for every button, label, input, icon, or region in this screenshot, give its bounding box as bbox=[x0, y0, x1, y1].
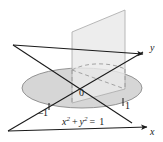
tick-label-positive-one: 1 bbox=[125, 101, 130, 111]
equation-operator: + bbox=[72, 116, 78, 127]
x-axis-line bbox=[8, 127, 147, 131]
equation-rhs: 1 bbox=[99, 116, 104, 127]
equation-term1-exponent: 2 bbox=[66, 115, 70, 123]
origin-label: 0 bbox=[79, 88, 84, 98]
math-figure-cylinder: y x 0 –1 1 x2+y2=1 bbox=[0, 0, 163, 142]
equation-label: x2+y2=1 bbox=[62, 116, 106, 127]
tick-label-negative-one: –1 bbox=[38, 108, 48, 118]
equation-term2-exponent: 2 bbox=[84, 115, 88, 123]
equation-equals: = bbox=[90, 116, 96, 127]
x-axis-label: x bbox=[150, 127, 154, 137]
y-axis-label: y bbox=[150, 43, 154, 53]
